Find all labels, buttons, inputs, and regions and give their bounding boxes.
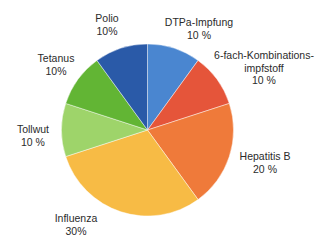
slice-name: DTPa-Impfung: [165, 16, 233, 29]
slice-label-tetanus: Tetanus10%: [38, 52, 75, 77]
slice-name: Tollwut: [17, 123, 49, 136]
slice-name: impfstoff: [214, 62, 314, 75]
slice-label-tollwut: Tollwut10 %: [17, 123, 49, 148]
slice-percentage: 10 %: [17, 136, 49, 149]
slice-percentage: 20 %: [240, 163, 291, 176]
slice-percentage: 10%: [95, 25, 118, 38]
slice-label-6-fach-kombinationsimpfstoff: 6-fach-Kombinations-impfstoff10 %: [214, 49, 314, 87]
slice-label-hepatitis-b: Hepatitis B20 %: [240, 150, 291, 175]
slice-name: Influenza: [55, 212, 98, 225]
slice-label-dtpa-impfung: DTPa-Impfung10 %: [165, 16, 233, 41]
slice-name: Hepatitis B: [240, 150, 291, 163]
slice-percentage: 10%: [38, 65, 75, 78]
slice-label-influenza: Influenza30%: [55, 212, 98, 237]
slice-label-polio: Polio10%: [95, 12, 118, 37]
slice-percentage: 30%: [55, 225, 98, 238]
slice-name: Polio: [95, 12, 118, 25]
slice-percentage: 10 %: [165, 29, 233, 42]
slice-name: 6-fach-Kombinations-: [214, 49, 314, 62]
slice-percentage: 10 %: [214, 74, 314, 87]
slice-name: Tetanus: [38, 52, 75, 65]
pie-chart: DTPa-Impfung10 %6-fach-Kombinations-impf…: [0, 0, 323, 247]
